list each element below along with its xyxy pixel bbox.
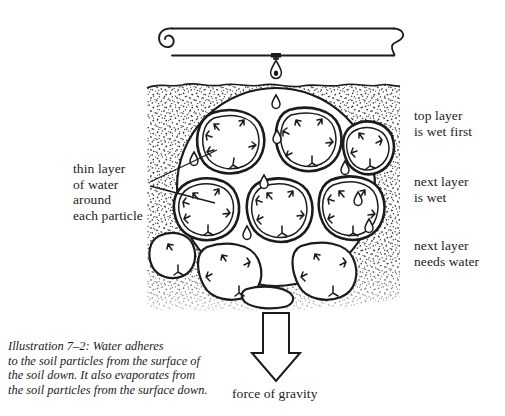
annotation-next-layer-needs: next layer needs water xyxy=(414,238,479,269)
soil-particle-icon xyxy=(242,287,293,309)
soil-particle-icon xyxy=(174,178,239,240)
figure-caption: Illustration 7–2: Water adheres to the s… xyxy=(8,339,223,397)
soil-particle-icon xyxy=(197,110,264,173)
drip-emitter-icon xyxy=(271,53,281,60)
annotation-force-of-gravity: force of gravity xyxy=(232,386,318,402)
annotation-top-layer: top layer is wet first xyxy=(414,108,472,139)
annotation-next-layer-wet: next layer is wet xyxy=(414,174,469,205)
down-arrow-icon xyxy=(252,313,300,381)
soil-particle-icon xyxy=(247,178,313,241)
water-droplet-icon xyxy=(271,61,282,79)
soil-particle-icon xyxy=(149,233,195,278)
soil-particle-icon xyxy=(292,243,356,300)
irrigation-pipe-icon xyxy=(159,28,403,55)
annotation-thin-layer-of-water: thin layer of water around each particle xyxy=(73,161,143,223)
soil-particle-icon xyxy=(319,176,385,239)
